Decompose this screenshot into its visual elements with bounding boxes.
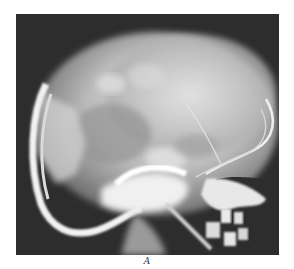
skull-radiograph (16, 14, 279, 255)
figure-caption: A (0, 256, 294, 266)
xray-image (16, 14, 279, 255)
